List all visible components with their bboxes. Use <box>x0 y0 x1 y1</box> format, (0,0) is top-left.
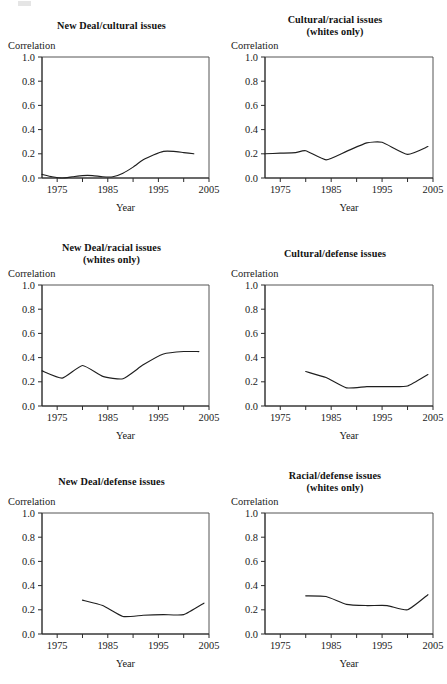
x-axis-label: Year <box>339 202 359 213</box>
y-tick-label: 0.0 <box>22 173 35 184</box>
x-tick-label: 1975 <box>270 412 291 423</box>
panel-title-main: Racial/defense issues <box>289 470 381 481</box>
plot-frame <box>265 285 433 406</box>
y-tick-label: 1.0 <box>22 508 35 519</box>
x-tick-label: 1985 <box>321 184 342 195</box>
series-line-new-deal-defense-issues <box>82 600 203 617</box>
plot-frame <box>265 513 433 634</box>
plot-frame <box>265 57 433 178</box>
x-tick-label: 1995 <box>148 412 169 423</box>
panel-subtitle: (whites only) <box>223 26 447 38</box>
x-tick-label: 1975 <box>270 640 291 651</box>
panel-cultural-defense-issues: Cultural/defense issuesCorrelation0.00.2… <box>223 228 447 456</box>
y-axis-label: Correlation <box>231 268 278 279</box>
y-axis-label: Correlation <box>8 496 55 507</box>
panel-title-main: New Deal/cultural issues <box>57 20 166 31</box>
panel-title: New Deal/defense issues <box>0 456 223 488</box>
x-tick-label: 2005 <box>199 184 220 195</box>
y-axis-label: Correlation <box>8 268 55 279</box>
x-axis-label: Year <box>339 658 359 669</box>
y-tick-label: 1.0 <box>245 52 258 63</box>
panel-title: Racial/defense issues(whites only) <box>223 456 447 493</box>
figure-grid: New Deal/cultural issuesCorrelation0.00.… <box>0 0 447 684</box>
y-tick-label: 0.2 <box>22 604 35 615</box>
x-tick-label: 1995 <box>148 184 169 195</box>
panel-cultural-racial-issues-whites-only: Cultural/racial issues(whites only)Corre… <box>223 0 447 228</box>
y-tick-label: 0.6 <box>22 556 35 567</box>
panel-subtitle: (whites only) <box>223 482 447 494</box>
panel-title: New Deal/cultural issues <box>0 0 223 32</box>
y-tick-label: 1.0 <box>22 280 35 291</box>
plot-area: 0.00.20.40.60.81.01975198519952005Year <box>223 228 447 456</box>
y-tick-label: 1.0 <box>245 508 258 519</box>
panel-racial-defense-issues-whites-only: Racial/defense issues(whites only)Correl… <box>223 456 447 684</box>
panel-subtitle: (whites only) <box>0 254 223 266</box>
series-line-racial-defense-issues-whites-only <box>306 595 428 610</box>
plot-frame <box>42 57 209 178</box>
y-tick-label: 0.6 <box>245 556 258 567</box>
x-tick-label: 1975 <box>270 184 291 195</box>
y-axis-label: Correlation <box>8 40 55 51</box>
x-axis-label: Year <box>116 430 136 441</box>
x-tick-label: 1985 <box>97 412 118 423</box>
y-tick-label: 0.6 <box>245 100 258 111</box>
x-tick-label: 1995 <box>372 184 393 195</box>
x-axis-label: Year <box>116 658 136 669</box>
plot-wrap: 0.00.20.40.60.81.01975198519952005Year <box>0 0 223 228</box>
y-tick-label: 0.4 <box>245 580 259 591</box>
x-tick-label: 1975 <box>47 184 68 195</box>
plot-frame <box>42 513 209 634</box>
y-tick-label: 0.0 <box>22 401 35 412</box>
x-tick-label: 1995 <box>372 412 393 423</box>
panel-title-main: New Deal/defense issues <box>58 476 164 487</box>
panel-title-main: Cultural/racial issues <box>288 14 383 25</box>
x-axis-label: Year <box>116 202 136 213</box>
y-tick-label: 0.2 <box>22 148 35 159</box>
plot-wrap: 0.00.20.40.60.81.01975198519952005Year <box>223 228 447 456</box>
x-tick-label: 1995 <box>372 640 393 651</box>
y-axis-label: Correlation <box>231 40 278 51</box>
y-tick-label: 1.0 <box>22 52 35 63</box>
x-axis-label: Year <box>339 430 359 441</box>
y-tick-label: 0.4 <box>22 580 36 591</box>
y-tick-label: 0.0 <box>245 401 258 412</box>
x-tick-label: 1985 <box>321 640 342 651</box>
x-tick-label: 2005 <box>199 640 220 651</box>
plot-wrap: 0.00.20.40.60.81.01975198519952005Year <box>0 456 223 684</box>
y-tick-label: 0.6 <box>22 100 35 111</box>
y-tick-label: 0.0 <box>22 629 35 640</box>
x-tick-label: 1985 <box>97 640 118 651</box>
x-tick-label: 1975 <box>47 640 68 651</box>
panel-new-deal-racial-issues-whites-only: New Deal/racial issues(whites only)Corre… <box>0 228 223 456</box>
y-tick-label: 0.8 <box>22 532 35 543</box>
y-tick-label: 0.8 <box>245 532 258 543</box>
y-tick-label: 0.8 <box>22 76 35 87</box>
y-axis-label: Correlation <box>231 496 278 507</box>
y-tick-label: 0.2 <box>245 148 258 159</box>
panel-title-main: Cultural/defense issues <box>284 248 386 259</box>
y-tick-label: 0.2 <box>245 376 258 387</box>
plot-area: 0.00.20.40.60.81.01975198519952005Year <box>0 0 223 228</box>
x-tick-label: 2005 <box>423 412 444 423</box>
x-tick-label: 2005 <box>199 412 220 423</box>
panel-title-main: New Deal/racial issues <box>62 242 161 253</box>
series-line-new-deal-racial-issues-whites-only <box>42 351 199 379</box>
x-tick-label: 2005 <box>423 184 444 195</box>
y-tick-label: 0.0 <box>245 173 258 184</box>
y-tick-label: 0.4 <box>245 352 259 363</box>
x-tick-label: 1975 <box>47 412 68 423</box>
panel-new-deal-cultural-issues: New Deal/cultural issuesCorrelation0.00.… <box>0 0 223 228</box>
series-line-cultural-racial-issues-whites-only <box>265 142 428 160</box>
panel-title: Cultural/racial issues(whites only) <box>223 0 447 37</box>
x-tick-label: 1995 <box>148 640 169 651</box>
y-tick-label: 0.4 <box>22 352 36 363</box>
panel-title: New Deal/racial issues(whites only) <box>0 228 223 265</box>
y-tick-label: 0.4 <box>22 124 36 135</box>
x-tick-label: 1985 <box>97 184 118 195</box>
y-tick-label: 0.0 <box>245 629 258 640</box>
y-tick-label: 0.8 <box>245 76 258 87</box>
y-tick-label: 0.2 <box>22 376 35 387</box>
panel-new-deal-defense-issues: New Deal/defense issuesCorrelation0.00.2… <box>0 456 223 684</box>
y-tick-label: 0.8 <box>22 304 35 315</box>
y-tick-label: 0.4 <box>245 124 259 135</box>
